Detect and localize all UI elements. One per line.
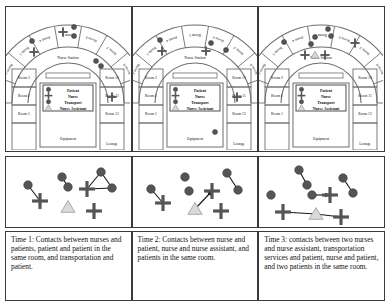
right-rooms: Room 10Room 11Room 12Lounge [353,69,377,150]
lounge-label: Lounge [106,142,118,146]
legend-symbol-circle-icon [46,100,50,104]
caption-text-time-2: Time 2: Contacts between nurse and patie… [138,235,254,262]
legend-symbol-circle-icon [173,100,177,104]
network-node-circle [295,166,304,175]
network-nodes [24,168,117,219]
legend: PatientNurseTransportNurse Assistant [170,85,220,111]
arc-room-label: Room 3 [145,46,157,57]
right-rooms: Room 10Room 11Room 12Lounge [227,69,251,150]
left-room-label: Room 2 [145,94,157,98]
plan-marker-circle [72,34,77,39]
right-rooms: Room 10Room 11Room 12Lounge [100,69,124,150]
arc-room-label: Room 5 [189,33,201,37]
right-room-label: Room 12 [232,112,246,116]
caption-text-time-3: Time 3: contacts between two nurses and … [264,235,380,271]
arc-room-label: Room 7 [232,46,244,57]
legend-label: Transport [318,100,336,105]
network-panel-2 [132,156,259,228]
left-rooms: Room 3Room 2Room 1 [12,69,36,150]
left-rooms: Room 3Room 2Room 1 [265,69,289,150]
plan-marker-circle [94,59,99,64]
legend-label: Nurse [194,94,204,99]
legend-symbol-circle-icon [300,87,304,91]
legend-label: Nurse Assistant [186,106,213,111]
network-node-circle [222,169,231,178]
network-node-cross [322,187,338,203]
network-nodes [146,169,242,219]
network-node-cross [333,209,349,225]
left-room-label: Room 1 [18,112,30,116]
left-room-label: Room 3 [18,76,30,80]
network-node-circle [97,168,106,177]
floorplan-panel-3: Room 1Room 2Room 3Room 4Room 5Room 6Room… [258,6,385,152]
legend-label: Patient [67,88,80,93]
network-node-triangle [61,201,75,213]
network-nodes [267,166,358,225]
arc-room-label: Room 7 [359,46,371,57]
floorplan-row: Room 1Room 2Room 3Room 4Room 5Room 6Room… [5,6,385,152]
left-room-label: Room 1 [145,112,157,116]
plan-marker-circle [329,34,334,39]
left-rooms: Room 3Room 2Room 1 [139,69,163,150]
legend-label: Patient [320,88,333,93]
plan-marker-circle [99,64,104,69]
arc-room-label: Room 7 [106,46,118,57]
right-room-label: Room 12 [358,112,372,116]
legend: PatientNurseTransportNurse Assistant [43,85,93,111]
network-node-cross [79,181,95,197]
plan-marker-triangle [311,51,319,58]
plan-marker-circle [223,48,228,53]
network-node-circle [24,181,33,190]
arc-room-label: Room 6 [85,35,97,43]
plan-marker-circle [208,41,213,46]
lounge-label: Lounge [233,142,245,146]
legend-label: Transport [191,100,209,105]
plan-marker-cross [301,50,310,59]
legend-label: Nurse [321,94,331,99]
network-node-circle [233,186,242,195]
network-node-circle [108,184,117,193]
network-node-cross [86,203,102,219]
plan-marker-circle [212,130,217,135]
left-room-label: Room 2 [18,94,30,98]
legend: PatientNurseTransportNurse Assistant [296,85,346,111]
right-room-label: Room 11 [358,94,372,98]
arc-room-label: Room 3 [18,46,30,57]
network-node-cross [155,195,171,211]
lounge-label: Lounge [360,142,372,146]
network-row [5,156,385,228]
network-node-cross [32,193,48,209]
network-node-circle [58,173,67,182]
contact-network-figure: Room 1Room 2Room 3Room 4Room 5Room 6Room… [0,0,390,307]
equipment-label: Equipment [187,137,203,141]
plan-marker-circle [157,38,162,43]
legend-symbol-circle-icon [173,87,177,91]
caption-panel-1: Time 1: Contacts between nurses and pati… [5,231,132,301]
legend-label: Nurse Assistant [60,106,87,111]
right-room-label: Room 10 [232,76,246,80]
legend-label: Transport [64,100,82,105]
network-node-circle [349,189,358,198]
plan-marker-cross [157,46,166,55]
arc-room-label: Room 6 [338,35,350,43]
network-panel-1 [5,156,132,228]
floorplan-panel-1: Room 1Room 2Room 3Room 4Room 5Room 6Room… [5,6,132,152]
left-room-label: Room 3 [145,76,157,80]
nurse-station-label: Nurse Station [184,56,205,60]
network-node-circle [184,187,193,196]
floorplan-panel-2: Room 1Room 2Room 3Room 4Room 5Room 6Room… [132,6,259,152]
right-room-label: Room 10 [358,76,372,80]
legend-symbol-circle-icon [46,87,50,91]
plan-marker-circle [72,25,77,30]
plan-marker-circle [313,35,318,40]
left-room-label: Room 1 [271,112,283,116]
network-panel-3 [258,156,385,228]
arc-room-label: Room 4 [38,35,50,43]
left-room-label: Room 3 [271,76,283,80]
equipment-label: Equipment [60,137,76,141]
plan-marker-circle [309,42,314,47]
arc-room-label: Room 4 [292,35,304,43]
caption-panel-2: Time 2: Contacts between nurse and patie… [132,231,259,301]
legend-symbol-circle-icon [300,100,304,104]
arc-room-label: Room 4 [165,35,177,43]
